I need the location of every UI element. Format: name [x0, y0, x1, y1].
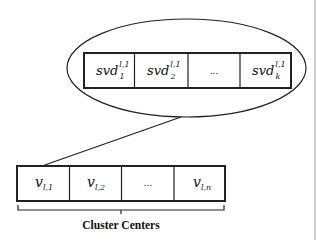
diagram-canvas: svdl,11 svdl,12 ... svdl,1k vl,1 vl,2 ..…: [0, 0, 319, 240]
cluster-centers-vector: vl,1 vl,2 ... vl,n: [17, 166, 225, 201]
svd-vector: svdl,11 svdl,12 ... svdl,1k: [84, 53, 291, 88]
center-cell-ellipsis: ...: [144, 178, 153, 188]
connector-line: [42, 117, 181, 166]
brace-bracket: [18, 205, 224, 214]
cluster-centers-label: Cluster Centers: [82, 219, 160, 231]
svd-cell-ellipsis: ...: [210, 66, 219, 76]
